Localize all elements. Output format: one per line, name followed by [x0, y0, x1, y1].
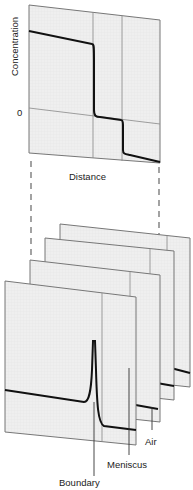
boundary-label: Boundary — [59, 477, 100, 488]
air-label: Air — [145, 436, 157, 447]
sedimentation-diagram: Concentration 0 Distance Air Meni — [0, 0, 193, 490]
meniscus-label: Meniscus — [107, 459, 147, 470]
concentration-plot: Concentration 0 Distance — [9, 5, 160, 182]
x-axis-label: Distance — [69, 171, 106, 182]
stack-panel-1 — [5, 281, 136, 445]
y-axis-label: Concentration — [9, 17, 20, 76]
zero-label: 0 — [17, 107, 22, 118]
